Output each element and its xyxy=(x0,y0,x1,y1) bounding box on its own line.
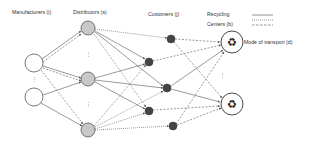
distributor-node xyxy=(81,123,95,137)
customer-node xyxy=(167,35,175,43)
svg-text:⋮: ⋮ xyxy=(86,101,91,107)
edges xyxy=(41,29,224,130)
legend xyxy=(252,15,273,25)
distributor-node xyxy=(81,21,95,35)
recycle-icon: ♻ xyxy=(227,98,237,110)
distributor-nodes xyxy=(81,21,95,137)
customer-node xyxy=(169,122,177,130)
distributor-node xyxy=(81,72,95,86)
customer-node xyxy=(163,84,171,92)
recycle-icon: ♻ xyxy=(227,36,237,48)
svg-text:⋮: ⋮ xyxy=(86,51,91,57)
customer-nodes xyxy=(145,35,177,130)
svg-text:⋮: ⋮ xyxy=(32,76,37,82)
customer-node xyxy=(145,107,153,115)
supply-chain-network-diagram: ♻ ♻ ⋮ ⋮ ⋮ ⋮ xyxy=(0,0,319,147)
customer-node xyxy=(145,58,153,66)
manufacturer-node xyxy=(25,88,43,106)
manufacturer-node xyxy=(25,54,43,72)
ellipsis-marks: ⋮ ⋮ ⋮ ⋮ xyxy=(32,51,225,107)
svg-text:⋮: ⋮ xyxy=(220,72,225,78)
